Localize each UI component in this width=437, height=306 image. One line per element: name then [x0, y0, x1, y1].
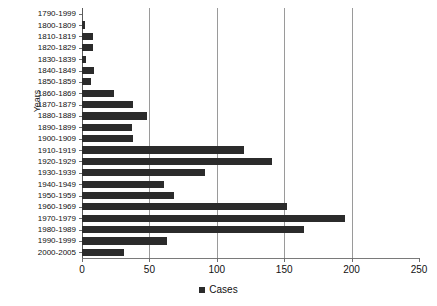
- y-tick-label-1870-1879: 1870-1879: [0, 100, 76, 109]
- bar-row: [82, 56, 419, 63]
- y-tick-label-1890-1899: 1890-1899: [0, 123, 76, 132]
- y-tick-label-1790-1999: 1790-1999: [0, 9, 76, 18]
- x-tick-mark-0: [82, 258, 83, 262]
- bar-row: [82, 237, 419, 244]
- bar-1900-1909: [82, 135, 133, 142]
- bar-row: [82, 169, 419, 176]
- bar-row: [82, 112, 419, 119]
- x-tick-mark-150: [284, 258, 285, 262]
- x-axis-line: [82, 258, 420, 259]
- bar-row: [82, 203, 419, 210]
- x-tick-mark-250: [419, 258, 420, 262]
- x-tick-label-50: 50: [129, 264, 169, 275]
- chart-legend: Cases: [0, 284, 437, 295]
- bar-row: [82, 146, 419, 153]
- y-tick-label-1800-1809: 1800-1809: [0, 21, 76, 30]
- bar-1910-1919: [82, 146, 244, 153]
- legend-swatch-cases: [199, 287, 205, 293]
- bar-row: [82, 249, 419, 256]
- y-tick-label-1820-1829: 1820-1829: [0, 43, 76, 52]
- bar-1950-1959: [82, 192, 174, 199]
- y-tick-label-1910-1919: 1910-1919: [0, 146, 76, 155]
- bar-1980-1989: [82, 226, 304, 233]
- bar-row: [82, 33, 419, 40]
- x-tick-mark-100: [217, 258, 218, 262]
- bar-row: [82, 10, 419, 17]
- y-tick-label-2000-2005: 2000-2005: [0, 248, 76, 257]
- bar-1860-1869: [82, 90, 114, 97]
- y-tick-label-1860-1869: 1860-1869: [0, 89, 76, 98]
- bar-1840-1849: [82, 67, 94, 74]
- x-tick-mark-200: [352, 258, 353, 262]
- y-tick-label-1840-1849: 1840-1849: [0, 66, 76, 75]
- bar-1800-1809: [82, 21, 85, 28]
- bar-row: [82, 78, 419, 85]
- bar-row: [82, 101, 419, 108]
- y-tick-label-1980-1989: 1980-1989: [0, 225, 76, 234]
- bar-row: [82, 67, 419, 74]
- x-tick-label-150: 150: [264, 264, 304, 275]
- bar-row: [82, 158, 419, 165]
- y-tick-label-1810-1819: 1810-1819: [0, 32, 76, 41]
- bar-2000-2005: [82, 249, 124, 256]
- y-tick-label-1920-1929: 1920-1929: [0, 157, 76, 166]
- bar-1960-1969: [82, 203, 287, 210]
- x-tick-label-100: 100: [197, 264, 237, 275]
- bar-1970-1979: [82, 215, 345, 222]
- bar-1850-1859: [82, 78, 91, 85]
- bar-row: [82, 21, 419, 28]
- y-tick-label-1900-1909: 1900-1909: [0, 134, 76, 143]
- bar-1890-1899: [82, 124, 132, 131]
- y-tick-label-1830-1839: 1830-1839: [0, 55, 76, 64]
- x-tick-label-250: 250: [399, 264, 437, 275]
- bar-1880-1889: [82, 112, 147, 119]
- bar-row: [82, 181, 419, 188]
- bar-1930-1939: [82, 169, 205, 176]
- x-tick-label-200: 200: [332, 264, 372, 275]
- bar-row: [82, 90, 419, 97]
- bar-1820-1829: [82, 44, 93, 51]
- y-tick-label-1960-1969: 1960-1969: [0, 202, 76, 211]
- y-tick-label-1950-1959: 1950-1959: [0, 191, 76, 200]
- y-tick-label-1850-1859: 1850-1859: [0, 77, 76, 86]
- bar-row: [82, 124, 419, 131]
- bar-row: [82, 226, 419, 233]
- x-tick-mark-50: [149, 258, 150, 262]
- bar-1870-1879: [82, 101, 133, 108]
- y-tick-label-1930-1939: 1930-1939: [0, 168, 76, 177]
- bar-chart: Years 1790-19991800-18091810-18191820-18…: [0, 0, 437, 306]
- bars-layer: [82, 8, 419, 258]
- plot-area: [82, 8, 419, 258]
- y-tick-label-1940-1949: 1940-1949: [0, 180, 76, 189]
- bar-row: [82, 215, 419, 222]
- x-tick-label-0: 0: [62, 264, 102, 275]
- bar-1940-1949: [82, 181, 164, 188]
- bar-row: [82, 44, 419, 51]
- bar-row: [82, 192, 419, 199]
- y-tick-label-1880-1889: 1880-1889: [0, 111, 76, 120]
- bar-1830-1839: [82, 56, 86, 63]
- legend-label-cases: Cases: [209, 284, 237, 295]
- bar-row: [82, 135, 419, 142]
- bar-1920-1929: [82, 158, 272, 165]
- y-axis-category-labels: 1790-19991800-18091810-18191820-18291830…: [0, 8, 80, 258]
- y-tick-label-1990-1999: 1990-1999: [0, 236, 76, 245]
- y-tick-label-1970-1979: 1970-1979: [0, 214, 76, 223]
- bar-1810-1819: [82, 33, 93, 40]
- bar-1990-1999: [82, 237, 167, 244]
